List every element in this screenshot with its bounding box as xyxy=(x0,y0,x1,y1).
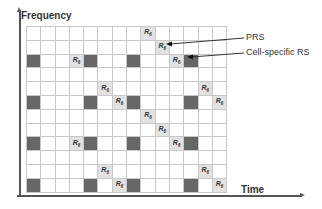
crs-arrow-icon xyxy=(187,55,193,60)
legend-arrows xyxy=(0,0,322,209)
prs-arrow-icon xyxy=(166,42,172,47)
legend-crs-label: Cell-specific RS xyxy=(246,47,310,57)
legend-prs-label: PRS xyxy=(246,32,265,42)
